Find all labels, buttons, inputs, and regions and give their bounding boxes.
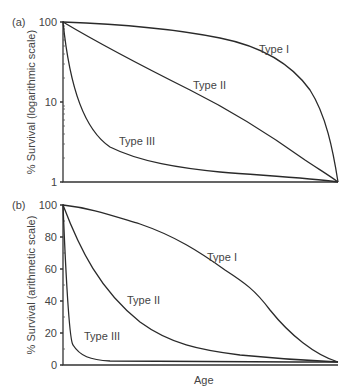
panel-b-tick-0: 0 (51, 359, 57, 371)
panel-a-tick-100: 100 (39, 16, 57, 28)
panel-b-type-ii-label: Type II (127, 294, 160, 306)
panel-b-type-iii-label: Type III (84, 330, 120, 342)
panel-b-tick-60: 60 (45, 263, 57, 275)
panel-a-type-ii-label: Type II (193, 79, 226, 91)
panel-b-x-axis-label: Age (194, 374, 214, 386)
panel-a-y-axis-label: % Survival (logarithmic scale) (25, 30, 37, 174)
panel-a-tick-1: 1 (51, 176, 57, 188)
panel-a: (a) % Survival (logarithmic scale) 100 1… (12, 16, 338, 188)
panel-b-type-i-label: Type I (207, 251, 237, 263)
panel-b-tag: (b) (12, 199, 25, 211)
panel-a-tag: (a) (12, 16, 25, 28)
panel-b-y-axis-label: % Survival (arithmetic scale) (25, 216, 37, 355)
panel-b-tick-20: 20 (45, 327, 57, 339)
panel-a-type-i-label: Type I (259, 43, 289, 55)
panel-a-type-ii-curve (63, 22, 338, 182)
panel-a-type-iii-label: Type III (119, 135, 155, 147)
panel-b-tick-100: 100 (39, 199, 57, 211)
panel-b-tick-40: 40 (45, 295, 57, 307)
survivorship-figure: (a) % Survival (logarithmic scale) 100 1… (0, 0, 354, 391)
panel-a-tick-10: 10 (45, 96, 57, 108)
panel-b-tick-80: 80 (45, 231, 57, 243)
panel-b: (b) % Survival (arithmetic scale) 100 80… (12, 199, 338, 386)
